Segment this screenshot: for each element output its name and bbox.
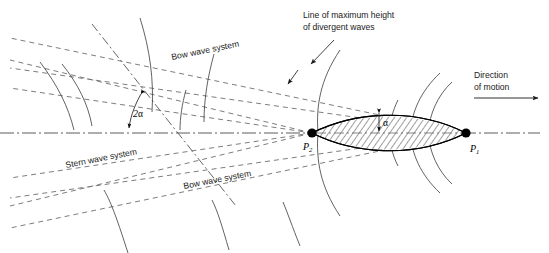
point-label-p1-base: P xyxy=(469,143,476,154)
point-marker-p2 xyxy=(307,128,316,137)
ship-hull-group xyxy=(305,100,475,166)
stern-wave-system-group xyxy=(10,18,312,206)
wave-pattern-diagram: P2 P1 2α α Line of maximum height of div… xyxy=(0,0,549,253)
stern-transverse-upper-1 xyxy=(140,18,153,112)
kelvin-wake-figure: P2 P1 2α α Line of maximum height of div… xyxy=(0,0,549,253)
stern-envelope-upper-outer xyxy=(10,60,312,133)
leader-bow-wave-upper xyxy=(288,70,298,84)
stern-transverse-upper-3 xyxy=(180,90,186,130)
stern-envelope-lower-outer xyxy=(10,133,312,206)
label-line-max-height-row1: Line of maximum height xyxy=(303,10,395,20)
stern-crest-upper-2 xyxy=(40,62,74,130)
point-marker-p1 xyxy=(461,128,470,137)
bow-crest-farfield-lower-2 xyxy=(212,200,229,250)
label-direction-row1: Direction xyxy=(474,70,508,80)
label-line-max-height-row2: of divergent waves xyxy=(303,22,375,32)
label-stern-wave-system: Stern wave system xyxy=(64,146,137,170)
transverse-crest-upper-1 xyxy=(318,50,340,133)
point-label-p2: P2 xyxy=(302,141,313,153)
point-label-p2-subscript: 2 xyxy=(309,146,313,153)
label-line-of-max-height: Line of maximum height of divergent wave… xyxy=(303,10,395,64)
leader-line-max-height xyxy=(311,40,334,64)
point-label-p1: P1 xyxy=(469,143,479,155)
half-angle-ray-lower xyxy=(166,118,236,206)
half-angle-ray-upper xyxy=(92,24,166,118)
stern-transverse-upper-2 xyxy=(204,54,214,122)
bow-crest-farfield-lower-3 xyxy=(283,202,300,246)
angle-two-alpha-symbol: α xyxy=(138,109,143,119)
stern-envelope-upper-inner xyxy=(10,88,312,133)
angle-two-alpha-group: 2α xyxy=(129,94,143,128)
transverse-crest-lower-1 xyxy=(318,133,340,216)
label-direction-row2: of motion xyxy=(474,82,510,92)
bow-crest-farfield-lower-1 xyxy=(104,190,128,253)
label-direction-of-motion-group: Direction of motion xyxy=(474,70,538,98)
label-bow-wave-upper-group: Bow wave system xyxy=(170,38,298,84)
stern-envelope-lower-inner xyxy=(10,133,312,178)
point-label-p1-subscript: 1 xyxy=(476,148,479,155)
angle-alpha-label: α xyxy=(383,118,388,128)
label-bow-wave-upper: Bow wave system xyxy=(170,38,239,62)
angle-two-alpha-label: 2α xyxy=(133,108,143,119)
point-label-p2-base: P xyxy=(302,141,309,152)
label-bow-wave-lower: Bow wave system xyxy=(182,168,251,191)
